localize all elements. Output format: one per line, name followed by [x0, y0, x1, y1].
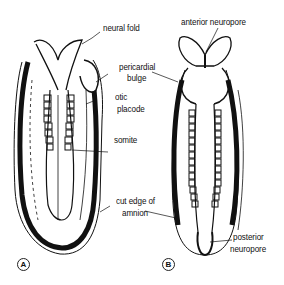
- label-anterior-neuropore: anterior neuropore: [181, 17, 246, 27]
- panel-badge-b: B: [162, 258, 175, 271]
- panel-badge-a: A: [17, 258, 30, 271]
- label-posterior-neuropore-line2: neuropore: [230, 244, 266, 254]
- label-posterior-neuropore-line1: posterior: [233, 232, 264, 242]
- label-cut-edge-line1: cut edge of: [116, 196, 155, 206]
- label-pericardial-bulge-line2: bulge: [127, 73, 146, 83]
- embryo-b: [145, 28, 243, 255]
- label-somite: somite: [114, 135, 137, 145]
- label-otic-placode-line2: placode: [117, 104, 145, 114]
- label-otic-placode-line1: otic: [115, 92, 127, 102]
- label-cut-edge-line2: amnion: [122, 208, 148, 218]
- embryo-a: [14, 32, 110, 254]
- label-pericardial-bulge-line1: pericardial: [119, 62, 155, 72]
- label-neural-fold: neural fold: [103, 23, 140, 33]
